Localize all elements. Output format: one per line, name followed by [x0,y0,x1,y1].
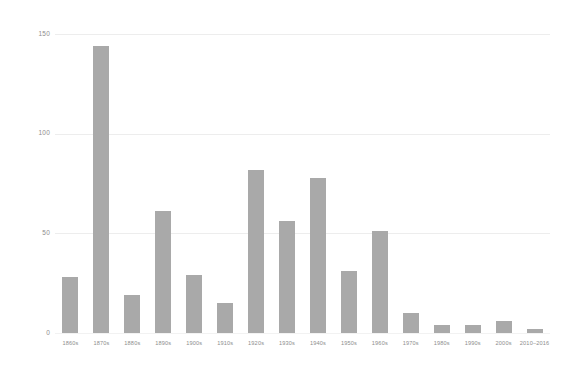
x-tick-label-1970s: 1970s [395,341,426,347]
bar-rect [217,303,233,333]
y-axis: 150 100 50 0 [0,0,50,379]
x-tick-label-1890s: 1890s [148,341,179,347]
bar-rect [248,170,264,333]
x-tick-label-1910s: 1910s [210,341,241,347]
x-tick-label-1960s: 1960s [364,341,395,347]
x-tick-label-2000s: 2000s [488,341,519,347]
x-tick-label-1870s: 1870s [86,341,117,347]
bar-1910s[interactable] [217,34,233,333]
bar-2010-2016[interactable] [527,34,543,333]
bar-2000s[interactable] [496,34,512,333]
bar-1880s[interactable] [124,34,140,333]
bar-rect [403,313,419,333]
bar-rect [310,178,326,333]
bar-rect [434,325,450,333]
bar-1930s[interactable] [279,34,295,333]
x-tick-label-1930s: 1930s [272,341,303,347]
bar-rect [124,295,140,333]
bar-1870s[interactable] [93,34,109,333]
bar-rect [372,231,388,333]
gridline-0 [55,333,550,334]
bar-1980s[interactable] [434,34,450,333]
bar-1970s[interactable] [403,34,419,333]
bar-rect [62,277,78,333]
bar-1890s[interactable] [155,34,171,333]
bar-1940s[interactable] [310,34,326,333]
x-axis: 1860s1870s1880s1890s1900s1910s1920s1930s… [55,341,550,355]
y-tick-label-0: 0 [10,330,50,337]
bar-rect [155,211,171,333]
bar-chart: 150 100 50 0 1860s1870s1880s1890s1900s19… [0,0,586,379]
bar-1920s[interactable] [248,34,264,333]
bar-1860s[interactable] [62,34,78,333]
bar-1900s[interactable] [186,34,202,333]
y-tick-label-50: 50 [10,230,50,237]
bar-rect [465,325,481,333]
x-tick-label-1880s: 1880s [117,341,148,347]
x-tick-label-1980s: 1980s [426,341,457,347]
bars-layer [55,34,550,333]
bar-1950s[interactable] [341,34,357,333]
x-tick-label-1920s: 1920s [241,341,272,347]
x-tick-label-1900s: 1900s [179,341,210,347]
bar-rect [279,221,295,333]
y-tick-label-100: 100 [10,130,50,137]
bar-rect [496,321,512,333]
bar-1960s[interactable] [372,34,388,333]
y-tick-label-150: 150 [10,31,50,38]
bar-rect [93,46,109,333]
bar-rect [341,271,357,333]
x-tick-label-2010-2016: 2010–2016 [519,341,550,347]
x-tick-label-1950s: 1950s [333,341,364,347]
bar-1990s[interactable] [465,34,481,333]
x-tick-label-1990s: 1990s [457,341,488,347]
x-tick-label-1940s: 1940s [303,341,334,347]
bar-rect [186,275,202,333]
bar-rect [527,329,543,333]
x-tick-label-1860s: 1860s [55,341,86,347]
